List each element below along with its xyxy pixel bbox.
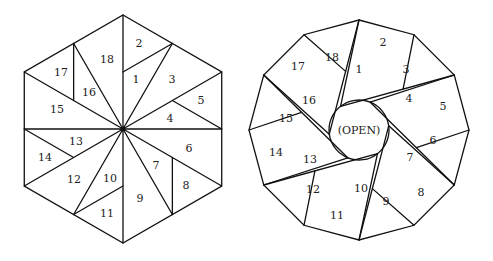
- cut-line: [249, 112, 302, 130]
- piece-label-8: 8: [183, 179, 190, 192]
- piece-label-18: 18: [100, 53, 114, 66]
- piece-label-12: 12: [67, 173, 81, 186]
- piece-label-1: 1: [133, 73, 140, 86]
- piece-label-3: 3: [169, 73, 176, 86]
- piece-label-2: 2: [380, 36, 387, 49]
- piece-label-12: 12: [306, 183, 320, 196]
- piece-label-16: 16: [302, 94, 316, 107]
- piece-label-2: 2: [136, 37, 143, 50]
- spiral-line: [341, 75, 455, 106]
- center-dot: [121, 127, 126, 132]
- piece-label-1: 1: [356, 63, 363, 76]
- spiral-line: [370, 102, 454, 185]
- open-center-label: (OPEN): [338, 124, 381, 137]
- piece-label-14: 14: [38, 151, 52, 164]
- piece-label-4: 4: [167, 112, 174, 125]
- piece-label-9: 9: [383, 195, 390, 208]
- spiral-line: [329, 20, 359, 134]
- cut-line: [372, 189, 414, 226]
- piece-label-9: 9: [137, 192, 144, 205]
- piece-label-15: 15: [50, 103, 64, 116]
- piece-label-11: 11: [100, 207, 114, 220]
- piece-label-17: 17: [54, 66, 68, 79]
- cut-line: [123, 44, 172, 73]
- cut-line: [74, 186, 123, 215]
- spiral-line: [264, 75, 330, 134]
- piece-label-5: 5: [440, 100, 447, 113]
- piece-label-8: 8: [418, 186, 425, 199]
- spiral-line: [359, 154, 377, 240]
- piece-label-3: 3: [403, 63, 410, 76]
- spoke-line: [123, 44, 172, 130]
- spoke-line: [123, 129, 172, 215]
- piece-label-13: 13: [303, 153, 317, 166]
- piece-label-16: 16: [82, 86, 96, 99]
- spiral-line: [389, 126, 455, 185]
- piece-label-6: 6: [430, 134, 437, 147]
- cut-line: [416, 130, 469, 148]
- piece-label-7: 7: [153, 159, 160, 172]
- piece-label-17: 17: [291, 60, 305, 73]
- piece-label-13: 13: [69, 135, 83, 148]
- piece-label-7: 7: [407, 151, 414, 164]
- piece-label-15: 15: [279, 112, 293, 125]
- piece-label-11: 11: [330, 209, 344, 222]
- piece-label-10: 10: [354, 182, 368, 195]
- piece-label-4: 4: [406, 92, 413, 105]
- piece-label-5: 5: [198, 94, 205, 107]
- hexagon-diagram: [24, 15, 221, 243]
- cut-line: [304, 171, 315, 225]
- piece-label-6: 6: [186, 142, 193, 155]
- figure: 123456789101112131415161718 123456789101…: [0, 0, 493, 261]
- piece-label-10: 10: [103, 172, 117, 185]
- piece-label-18: 18: [325, 51, 339, 64]
- piece-label-14: 14: [269, 146, 283, 159]
